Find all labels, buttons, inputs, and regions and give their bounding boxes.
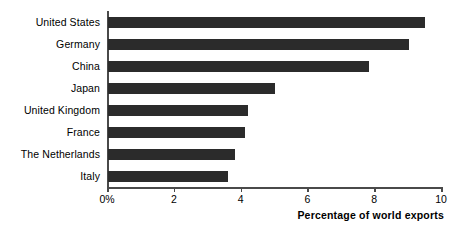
bar-united-kingdom <box>108 105 248 116</box>
bar-china <box>108 61 369 72</box>
x-axis-tick-label: 0% <box>99 193 114 205</box>
y-label-row: United States <box>0 11 104 33</box>
bar-germany <box>108 39 409 50</box>
y-axis-label-japan: Japan <box>71 83 104 94</box>
x-axis-tick-label: 10 <box>435 193 447 205</box>
bar-italy <box>108 171 228 182</box>
y-label-row: Japan <box>0 77 104 99</box>
y-label-row: China <box>0 55 104 77</box>
bar-row <box>108 77 442 99</box>
y-axis-label-the-netherlands: The Netherlands <box>21 149 104 160</box>
x-axis-tick <box>374 187 376 192</box>
bar-row <box>108 143 442 165</box>
y-label-row: France <box>0 121 104 143</box>
bar-row <box>108 11 442 33</box>
bar-the-netherlands <box>108 149 235 160</box>
y-label-row: United Kingdom <box>0 99 104 121</box>
y-axis-label-united-states: United States <box>36 17 104 28</box>
y-label-row: Italy <box>0 165 104 187</box>
plot-area <box>108 11 442 187</box>
x-axis-title: Percentage of world exports <box>297 209 444 221</box>
bar-row <box>108 55 442 77</box>
bar-united-states <box>108 17 425 28</box>
y-axis-label-italy: Italy <box>80 171 104 182</box>
x-axis-tick <box>307 187 309 192</box>
x-axis-tick-label: 4 <box>238 193 244 205</box>
bar-chart: United States Germany China Japan United… <box>0 0 460 242</box>
bar-row <box>108 99 442 121</box>
x-axis-line <box>107 187 441 189</box>
y-axis-label-china: China <box>72 61 104 72</box>
x-axis-tick-label: 6 <box>304 193 310 205</box>
bar-row <box>108 121 442 143</box>
bar-series <box>108 11 442 187</box>
category-axis-labels: United States Germany China Japan United… <box>0 11 104 187</box>
y-axis-label-france: France <box>67 127 104 138</box>
bar-row <box>108 165 442 187</box>
x-axis-tick <box>441 187 443 192</box>
y-axis-label-united-kingdom: United Kingdom <box>24 105 104 116</box>
bar-france <box>108 127 245 138</box>
y-label-row: Germany <box>0 33 104 55</box>
x-axis-tick <box>107 187 109 192</box>
bar-row <box>108 33 442 55</box>
x-axis-tick-label: 2 <box>171 193 177 205</box>
bar-japan <box>108 83 275 94</box>
x-axis-tick-label: 8 <box>371 193 377 205</box>
y-axis-label-germany: Germany <box>56 39 104 50</box>
y-label-row: The Netherlands <box>0 143 104 165</box>
x-axis-tick <box>174 187 176 192</box>
x-axis-tick <box>241 187 243 192</box>
